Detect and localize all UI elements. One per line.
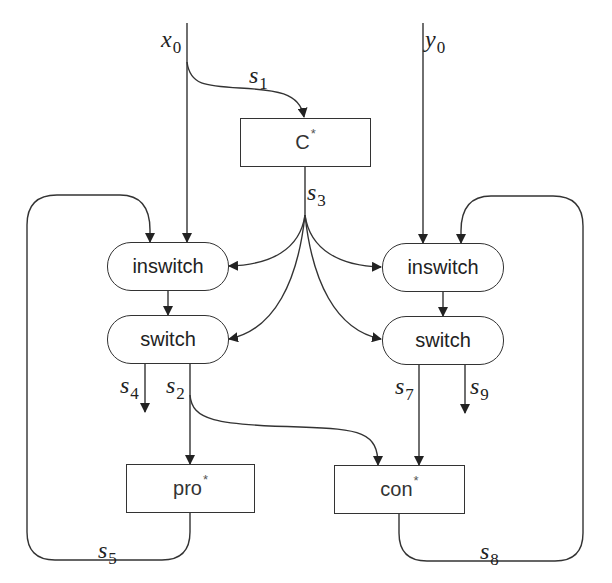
asterisk: * [414, 473, 419, 488]
node-c-star: C* [240, 118, 371, 167]
asterisk: * [311, 126, 316, 141]
edge-s2-con [190, 395, 378, 465]
node-switch-right: switch [382, 316, 504, 365]
node-switch-left: switch [107, 315, 229, 364]
dataflow-diagram: C* inswitch switch inswitch switch pro* … [0, 0, 612, 583]
edge-s3-inswitch-left [229, 215, 305, 266]
node-inswitch-left: inswitch [107, 242, 229, 291]
edge-s3-switch-left [229, 215, 305, 339]
edge-s3-switch-right [305, 215, 381, 339]
label-s4: s4 [120, 373, 139, 397]
node-inswitch-right: inswitch [382, 243, 504, 292]
label-s8: s8 [480, 539, 499, 563]
label-s9: s9 [470, 374, 489, 398]
label-s3: s3 [307, 180, 326, 204]
label-x0: x0 [161, 27, 181, 51]
edges-layer [0, 0, 612, 583]
label-s7: s7 [395, 374, 414, 398]
node-con-star: con* [334, 465, 465, 514]
label-s5: s5 [98, 538, 117, 562]
node-pro-star: pro* [126, 464, 255, 513]
label-s2: s2 [166, 373, 185, 397]
edge-s1 [187, 62, 304, 117]
asterisk: * [203, 472, 208, 487]
edge-s3-inswitch-right [305, 215, 381, 267]
label-y0: y0 [425, 27, 445, 51]
label-s1: s1 [249, 63, 268, 87]
